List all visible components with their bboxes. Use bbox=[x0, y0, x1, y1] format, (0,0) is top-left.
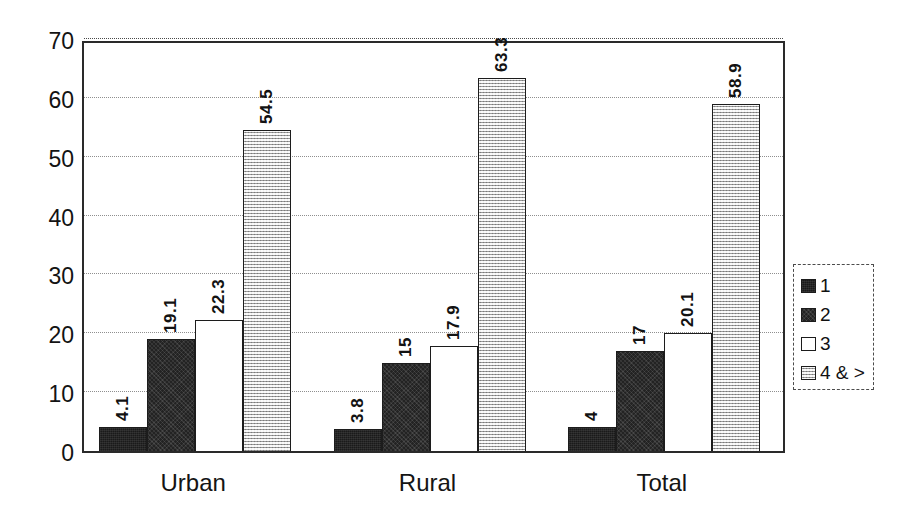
y-axis: 010203040506070 bbox=[22, 0, 74, 521]
plot-area: 4.119.122.354.53.81517.963.341720.158.9 bbox=[82, 41, 785, 453]
bar bbox=[382, 363, 430, 451]
legend-swatch-icon bbox=[801, 279, 816, 293]
bar-value-label: 17.9 bbox=[445, 305, 462, 340]
bar bbox=[430, 346, 478, 451]
bar-value-label: 63.3 bbox=[493, 37, 510, 72]
bar bbox=[478, 78, 526, 451]
legend-swatch-icon bbox=[801, 337, 816, 351]
bar bbox=[195, 320, 243, 451]
y-tick-label: 60 bbox=[48, 88, 74, 111]
x-tick-label: Urban bbox=[160, 470, 225, 496]
y-tick-label: 50 bbox=[48, 147, 74, 170]
legend: 1234 & > bbox=[793, 264, 874, 390]
bar-value-label: 19.1 bbox=[162, 298, 179, 333]
bar-value-label: 58.9 bbox=[727, 63, 744, 98]
legend-entry[interactable]: 2 bbox=[801, 300, 873, 329]
bar-value-label: 20.1 bbox=[679, 292, 696, 327]
gridline bbox=[84, 38, 783, 39]
legend-label: 1 bbox=[820, 276, 831, 295]
bar-value-label: 4 bbox=[583, 412, 600, 422]
bar-value-label: 4.1 bbox=[114, 396, 131, 421]
bar bbox=[568, 427, 616, 451]
legend-swatch-icon bbox=[801, 308, 816, 322]
bar-value-label: 54.5 bbox=[258, 89, 275, 124]
legend-swatch-icon bbox=[801, 366, 816, 380]
bar bbox=[616, 351, 664, 451]
y-tick-label: 10 bbox=[48, 383, 74, 406]
bars-layer: 4.119.122.354.53.81517.963.341720.158.9 bbox=[84, 43, 783, 451]
legend-entry[interactable]: 3 bbox=[801, 329, 873, 358]
y-tick-label: 40 bbox=[48, 206, 74, 229]
x-tick-label: Total bbox=[636, 470, 687, 496]
bar bbox=[664, 333, 712, 451]
bar bbox=[712, 104, 760, 451]
bar bbox=[99, 427, 147, 451]
legend-label: 3 bbox=[820, 334, 831, 353]
y-tick-label: 30 bbox=[48, 265, 74, 288]
bar bbox=[147, 339, 195, 451]
bar-value-label: 17 bbox=[631, 325, 648, 345]
legend-entry[interactable]: 1 bbox=[801, 271, 873, 300]
bar-value-label: 22.3 bbox=[210, 279, 227, 314]
y-tick-label: 20 bbox=[48, 324, 74, 347]
y-tick-label: 0 bbox=[61, 442, 74, 465]
x-axis-category-labels: UrbanRuralTotal bbox=[82, 470, 785, 510]
legend-label: 4 & > bbox=[820, 363, 865, 382]
bar bbox=[243, 130, 291, 451]
bar bbox=[334, 429, 382, 451]
y-tick-label: 70 bbox=[48, 30, 74, 53]
bar-value-label: 15 bbox=[397, 337, 414, 357]
legend-entry[interactable]: 4 & > bbox=[801, 358, 873, 387]
x-tick-label: Rural bbox=[399, 470, 456, 496]
legend-label: 2 bbox=[820, 305, 831, 324]
bar-chart: 010203040506070 4.119.122.354.53.81517.9… bbox=[0, 0, 909, 521]
bar-value-label: 3.8 bbox=[349, 398, 366, 423]
